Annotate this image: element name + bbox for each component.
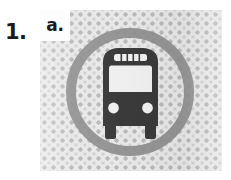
windshield [109,66,152,93]
headlight-right [142,103,153,114]
bus-front-icon [91,48,170,141]
headlight-left [108,103,119,114]
destination-sign [114,54,147,61]
item-label: a. [40,10,70,41]
wheel-left [105,122,116,139]
question-number: 1. [5,18,37,46]
wheel-right [145,122,156,139]
image-panel: a. [40,10,222,171]
